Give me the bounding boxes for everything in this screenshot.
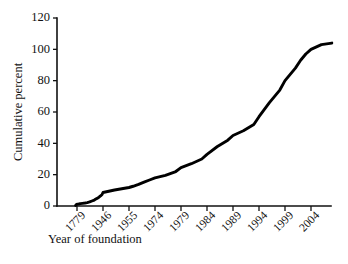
- cumulative-percent-line-chart: 020406080100120 177919461955197419791984…: [0, 0, 348, 264]
- y-axis-tick-label: 80: [38, 73, 51, 87]
- x-axis-tick-label: 1999: [271, 209, 296, 234]
- x-axis-tick-labels: 1779194619551974197919841989199419992004: [63, 209, 322, 234]
- x-axis-tick-label: 1974: [141, 209, 166, 234]
- y-axis-tick-label: 0: [44, 198, 50, 212]
- x-axis-tick-label: 1979: [167, 209, 192, 234]
- x-axis-tick-label: 1989: [219, 209, 244, 234]
- y-axis-title: Cumulative percent: [11, 62, 25, 161]
- x-axis-tick-label: 1994: [245, 209, 270, 234]
- y-axis: 020406080100120: [31, 10, 57, 212]
- data-series-group: [76, 43, 332, 205]
- cumulative-percent-curve: [76, 43, 332, 205]
- y-axis-tick-label: 120: [31, 10, 50, 24]
- x-axis-tick-label: 1946: [89, 209, 114, 234]
- y-axis-tick-label: 100: [31, 42, 50, 56]
- x-axis-tick-label: 1955: [115, 209, 140, 234]
- x-axis-title: Year of foundation: [48, 232, 143, 246]
- x-axis-tick-label: 1779: [63, 209, 88, 234]
- x-axis: 1779194619551974197919841989199419992004: [57, 206, 331, 234]
- y-axis-tick-label: 20: [38, 167, 51, 181]
- chart-figure: 020406080100120 177919461955197419791984…: [0, 0, 348, 264]
- x-axis-tick-label: 1984: [193, 209, 218, 234]
- y-axis-tick-label: 40: [38, 136, 51, 150]
- x-axis-tick-label: 2004: [297, 209, 322, 234]
- y-axis-tick-labels: 020406080100120: [31, 10, 50, 212]
- y-axis-tick-label: 60: [38, 104, 51, 118]
